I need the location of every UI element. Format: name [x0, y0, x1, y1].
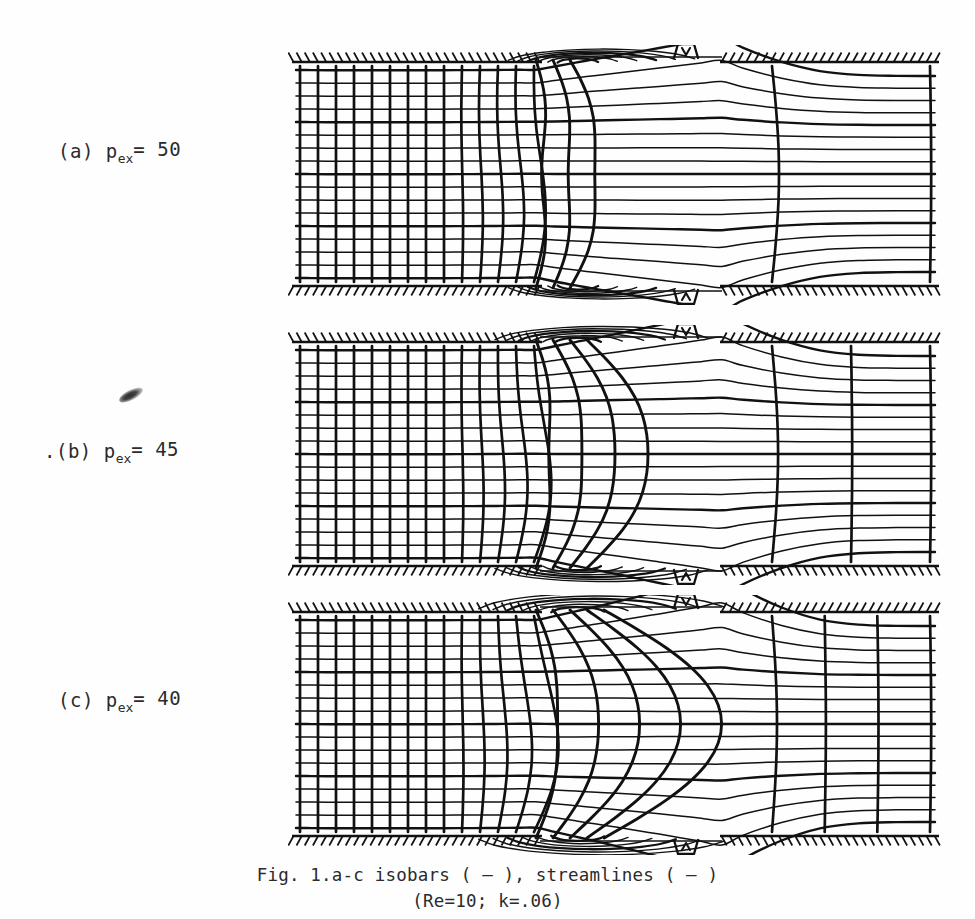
panel-a-value: = 50: [133, 138, 181, 160]
ink-smudge-artifact: [117, 385, 145, 406]
streamline: [296, 503, 935, 510]
panel-b-value: = 45: [131, 438, 179, 460]
isobar: [462, 616, 464, 832]
wall-bottom-outlet-hatching: [722, 286, 940, 296]
streamline: [296, 414, 935, 418]
flow-panel-a: [288, 45, 943, 305]
panel-b-subscript: ex: [116, 451, 132, 466]
flow-field-svg-b: [288, 325, 943, 585]
streamline: [296, 248, 935, 267]
figure-page: (a) pex= 50 .(b) pex= 45 (c) pex= 40 Fig…: [0, 0, 975, 919]
streamline: [296, 698, 935, 700]
streamline: [296, 491, 935, 495]
streamline: [296, 479, 935, 481]
panel-a-prefix: (a) p: [58, 140, 118, 162]
streamline: [296, 148, 935, 150]
flow-panel-c: [288, 595, 943, 855]
streamline: [296, 101, 935, 113]
streamline: [296, 724, 935, 725]
figure-caption-line-1: Fig. 1.a-c isobars ( – ), streamlines ( …: [0, 862, 975, 888]
streamline: [296, 749, 935, 751]
panel-c-value: = 40: [133, 687, 181, 709]
streamline: [296, 81, 935, 100]
panel-b-prefix: .(b) p: [44, 440, 116, 462]
wall-top-inlet-hatching: [288, 603, 539, 613]
streamline: [296, 552, 935, 585]
streamline: [296, 223, 935, 230]
figure-caption-line-2: (Re=10; k=.06): [0, 888, 975, 914]
panel-a-subscript: ex: [118, 151, 134, 166]
panel-label-a: (a) pex= 50: [58, 138, 181, 166]
streamline: [296, 272, 935, 305]
streamline: [296, 773, 935, 781]
isobar: [461, 66, 463, 282]
closed-contour-pocket-inner: [682, 293, 690, 300]
wall-bottom-inlet-hatching: [288, 836, 539, 846]
flow-panel-b: [288, 325, 943, 585]
streamline: [296, 235, 935, 247]
wall-top-inlet-hatching: [288, 53, 539, 63]
streamline: [296, 174, 935, 175]
isobar-outlet: [825, 616, 826, 832]
isobar: [462, 346, 464, 562]
closed-contour-pocket-inner: [682, 573, 690, 580]
closed-contour-pocket-inner: [682, 328, 690, 335]
streamline: [296, 428, 935, 430]
flow-field-svg-a: [288, 45, 943, 305]
streamline: [296, 199, 935, 201]
isobar-outlet: [877, 616, 878, 832]
isobar-outlet: [930, 346, 931, 562]
streamline: [296, 667, 935, 675]
streamline: [296, 380, 935, 393]
wall-bottom-outlet-hatching: [722, 836, 940, 846]
streamline: [296, 736, 935, 737]
streamline: [296, 118, 935, 125]
wall-bottom-outlet-hatching: [722, 566, 940, 576]
streamline: [296, 684, 935, 687]
panel-label-b: .(b) pex= 45: [44, 438, 179, 466]
wall-top-outlet-hatching: [722, 333, 940, 343]
panel-c-subscript: ex: [118, 700, 134, 715]
streamline: [296, 711, 935, 712]
wall-top-outlet-hatching: [722, 603, 940, 613]
streamline: [296, 133, 935, 137]
wall-bottom-inlet-hatching: [288, 286, 539, 296]
streamline: [296, 186, 935, 187]
isobar-outlet: [930, 616, 931, 832]
streamline: [296, 161, 935, 162]
panel-c-prefix: (c) p: [58, 689, 118, 711]
isobar-outlet: [851, 346, 852, 562]
streamline: [296, 211, 935, 215]
streamline: [296, 761, 935, 764]
isobar-outlet: [930, 66, 931, 282]
streamline: [296, 515, 935, 528]
streamline: [296, 398, 935, 405]
panel-label-c: (c) pex= 40: [58, 687, 181, 715]
flow-field-svg-c: [288, 595, 943, 855]
wall-top-outlet-hatching: [722, 53, 940, 63]
closed-contour-pocket-inner: [682, 48, 690, 55]
